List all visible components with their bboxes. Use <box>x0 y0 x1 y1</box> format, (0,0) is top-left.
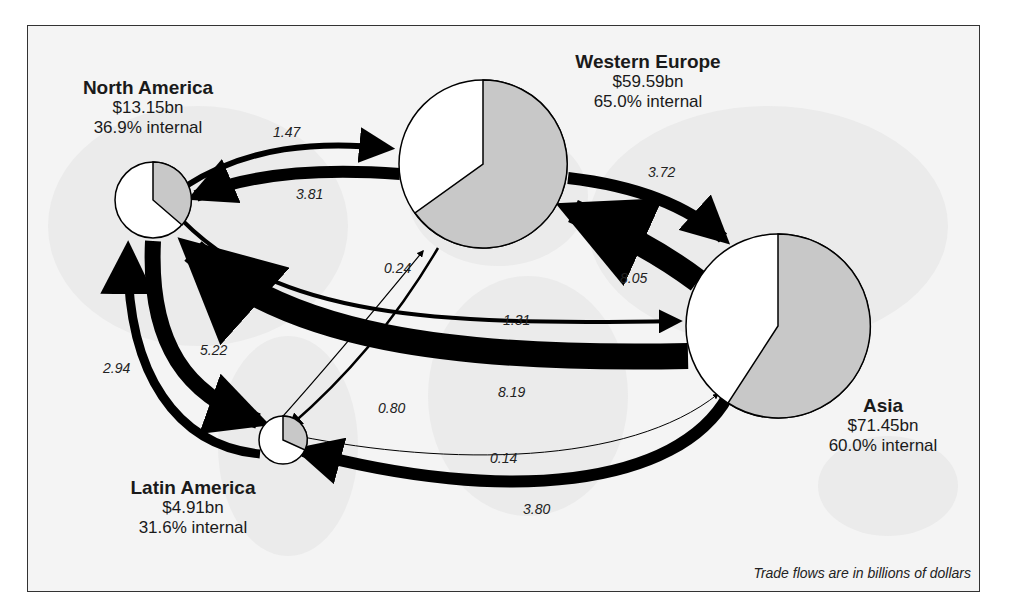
flow-label-na-we: 1.47 <box>273 124 300 140</box>
region-label-western-europe: Western Europe $59.59bn 65.0% internal <box>548 52 748 112</box>
flow-label-la-na: 2.94 <box>103 360 130 376</box>
region-label-north-america: North America $13.15bn 36.9% internal <box>58 78 238 138</box>
flow-label-na-asia: 1.31 <box>503 312 530 328</box>
flow-label-we-la: 0.80 <box>378 400 405 416</box>
pie-asia <box>686 234 870 418</box>
flow-label-asia-we: 8.05 <box>620 270 647 286</box>
flow-label-la-we: 0.24 <box>384 260 411 276</box>
pie-latin-america <box>259 416 307 464</box>
region-label-latin-america: Latin America $4.91bn 31.6% internal <box>103 478 283 538</box>
flow-label-na-la: 5.22 <box>200 342 227 358</box>
flow-label-asia-na: 8.19 <box>498 384 525 400</box>
trade-flow-diagram: North America $13.15bn 36.9% internal We… <box>27 25 980 592</box>
flow-label-asia-la: 3.80 <box>523 501 550 517</box>
region-label-asia: Asia $71.45bn 60.0% internal <box>803 396 963 456</box>
pie-north-america <box>115 162 191 238</box>
flow-label-we-na: 3.81 <box>296 186 323 202</box>
flow-label-la-asia: 0.14 <box>490 450 517 466</box>
flow-label-we-asia: 3.72 <box>648 164 675 180</box>
pie-western-europe <box>399 80 567 248</box>
units-note: Trade flows are in billions of dollars <box>753 565 971 581</box>
